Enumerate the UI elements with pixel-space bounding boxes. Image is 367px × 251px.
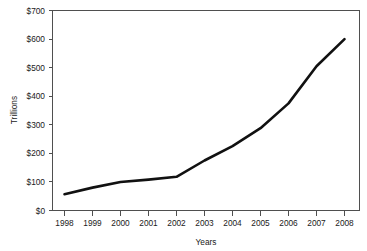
y-tick-label-0: $0	[36, 206, 46, 216]
x-axis-tick-labels: 1998 1999 2000 2001 2002 2003 2004 2005 …	[55, 218, 354, 228]
y-tick-label-100: $100	[27, 177, 46, 187]
x-tick-label-1999: 1999	[83, 218, 102, 228]
y-axis-title: Trillions	[9, 96, 19, 124]
y-tick-label-400: $400	[27, 91, 46, 101]
x-tick-label-1998: 1998	[55, 218, 74, 228]
x-tick-label-2006: 2006	[279, 218, 298, 228]
chart-background	[0, 0, 367, 251]
x-tick-label-2000: 2000	[111, 218, 130, 228]
x-axis-title: Years	[196, 237, 217, 247]
y-tick-label-200: $200	[27, 148, 46, 158]
x-tick-label-2001: 2001	[139, 218, 158, 228]
x-tick-label-2008: 2008	[335, 218, 354, 228]
x-tick-label-2007: 2007	[307, 218, 326, 228]
y-tick-label-700: $700	[27, 6, 46, 16]
x-tick-label-2003: 2003	[195, 218, 214, 228]
x-tick-label-2004: 2004	[223, 218, 242, 228]
y-tick-label-300: $300	[27, 120, 46, 130]
y-tick-label-500: $500	[27, 63, 46, 73]
y-tick-label-600: $600	[27, 34, 46, 44]
line-chart: $700 $600 $500 $400 $300 $200 $100 $0 19…	[0, 0, 367, 251]
x-tick-label-2002: 2002	[167, 218, 186, 228]
chart-canvas: $700 $600 $500 $400 $300 $200 $100 $0 19…	[0, 0, 367, 251]
x-tick-label-2005: 2005	[251, 218, 270, 228]
